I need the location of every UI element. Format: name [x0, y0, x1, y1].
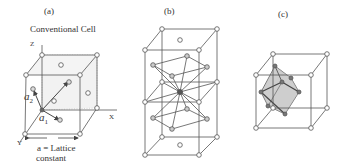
crystal-lattice-figure: (a) (b) (c) Conventional Cell Z X Y a3 a… [0, 0, 346, 167]
panel-a-cube [20, 45, 117, 142]
lattice-drawings [0, 0, 346, 167]
